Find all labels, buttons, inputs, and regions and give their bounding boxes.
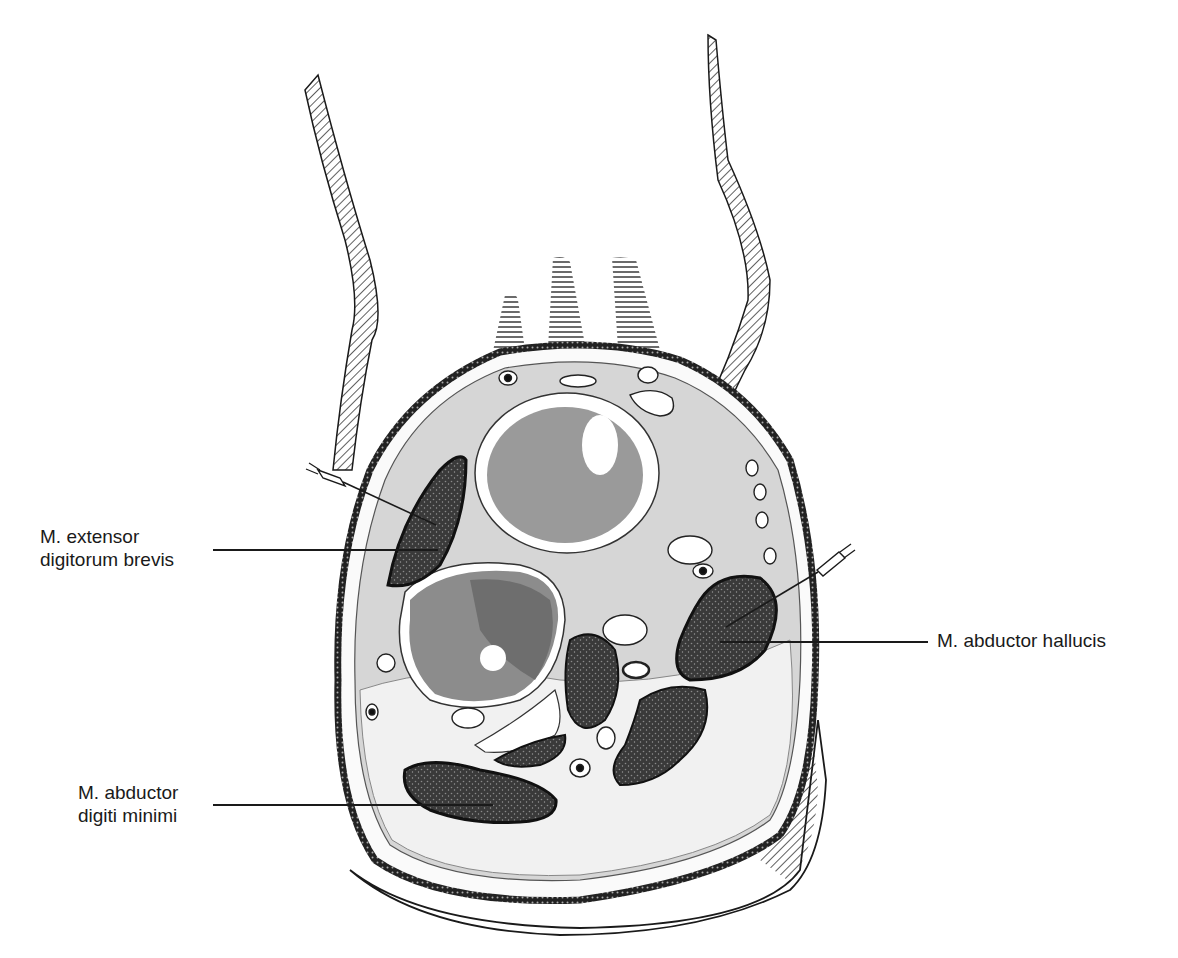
label-extensor-digitorum-brevis: M. extensor digitorum brevis — [40, 525, 174, 571]
label-abductor-digiti-minimi: M. abductor digiti minimi — [78, 781, 178, 827]
calcaneus-bone — [399, 563, 565, 708]
label-line: digiti minimi — [78, 804, 178, 827]
label-line: M. abductor — [78, 781, 178, 804]
leader-line-abductor-digiti-minimi — [213, 804, 493, 806]
label-line: M. extensor — [40, 525, 174, 548]
label-line: M. abductor hallucis — [937, 629, 1106, 652]
talus-bone — [475, 393, 659, 553]
leg-outline-right — [705, 35, 770, 420]
leader-line-abductor-hallucis — [720, 641, 928, 643]
leader-line-extensor-digitorum-brevis — [213, 549, 438, 551]
label-line: digitorum brevis — [40, 548, 174, 571]
leg-outline-left — [305, 75, 378, 470]
label-abductor-hallucis: M. abductor hallucis — [937, 629, 1106, 652]
